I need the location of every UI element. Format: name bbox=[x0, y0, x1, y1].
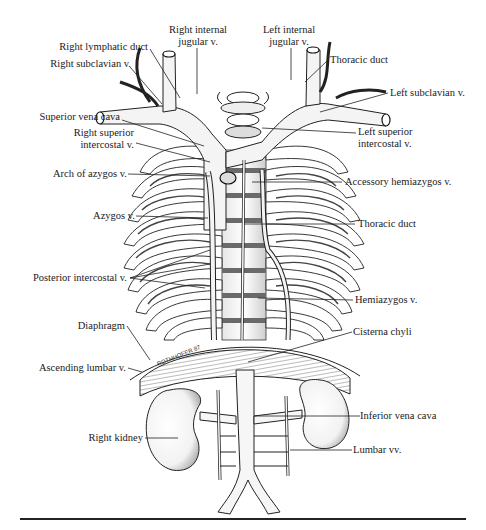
caption-divider bbox=[20, 518, 466, 520]
label-azygos-v: Azygos v. bbox=[93, 210, 135, 222]
label-inferior-vena-cava: Inferior vena cava bbox=[360, 410, 436, 422]
label-left-subclavian-v: Left subclavian v. bbox=[390, 87, 465, 99]
label-posterior-intercostal-v: Posterior intercostal v. bbox=[33, 272, 127, 284]
label-diaphragm: Diaphragm bbox=[78, 320, 125, 332]
anatomy-illustration: ROTHHOFER 87 bbox=[0, 0, 486, 530]
label-lumbar-vv: Lumbar vv. bbox=[353, 444, 401, 456]
label-thoracic-duct-top: Thoracic duct bbox=[330, 54, 388, 66]
label-thoracic-duct-mid: Thoracic duct bbox=[358, 218, 416, 230]
label-left-superior-intercostal-v: Left superior intercostal v. bbox=[358, 126, 413, 150]
label-cisterna-chyli: Cisterna chyli bbox=[353, 326, 412, 338]
label-arch-of-azygos-v: Arch of azygos v. bbox=[53, 168, 127, 180]
label-ascending-lumbar-v: Ascending lumbar v. bbox=[39, 362, 126, 374]
label-right-kidney: Right kidney bbox=[88, 432, 143, 444]
label-right-superior-intercostal-v: Right superior intercostal v. bbox=[74, 127, 134, 151]
label-hemiazygos-v: Hemiazygos v. bbox=[355, 294, 417, 306]
label-superior-vena-cava: Superior vena cava bbox=[40, 111, 120, 123]
label-right-subclavian-v: Right subclavian v. bbox=[50, 58, 131, 70]
label-left-internal-jugular-v: Left internal jugular v. bbox=[256, 24, 322, 48]
label-accessory-hemiazygos-v: Accessory hemiazygos v. bbox=[345, 176, 451, 188]
label-right-lymphatic-duct: Right lymphatic duct bbox=[59, 41, 148, 53]
label-right-internal-jugular-v: Right internal jugular v. bbox=[165, 24, 231, 48]
